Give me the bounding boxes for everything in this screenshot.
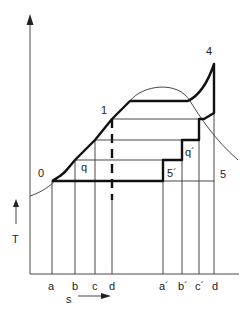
x-tick-labels: a b c d a´ b´ c´ d (48, 280, 218, 292)
svg-text:c: c (92, 280, 98, 292)
t-arrow-icon (13, 199, 19, 207)
svg-text:b: b (72, 280, 78, 292)
label-point-1: 1 (101, 104, 107, 116)
svg-text:b´: b´ (178, 280, 188, 292)
label-point-0: 0 (38, 167, 44, 179)
ts-diagram: 0 1 4 5 5´ q q´ T a b c d a´ b´ c´ d s (0, 0, 249, 312)
label-point-5: 5 (220, 168, 226, 180)
y-axis-arrow-icon (27, 14, 34, 25)
saturation-curve (30, 87, 238, 196)
label-point-4: 4 (206, 45, 212, 57)
svg-text:d: d (109, 280, 115, 292)
svg-text:a´: a´ (159, 280, 169, 292)
svg-text:a: a (48, 280, 55, 292)
s-axis-label: s (66, 293, 111, 305)
svg-text:s: s (66, 293, 72, 305)
svg-text:c´: c´ (195, 280, 204, 292)
label-q: q (81, 161, 87, 173)
label-qprime: q´ (185, 146, 195, 158)
process-path (52, 64, 214, 181)
svg-text:T: T (12, 233, 19, 245)
svg-text:d: d (212, 280, 218, 292)
s-arrow-icon (101, 293, 111, 299)
t-axis-label: T (12, 199, 19, 245)
entropy-verticals (52, 113, 214, 274)
label-point-5prime: 5´ (167, 167, 177, 179)
